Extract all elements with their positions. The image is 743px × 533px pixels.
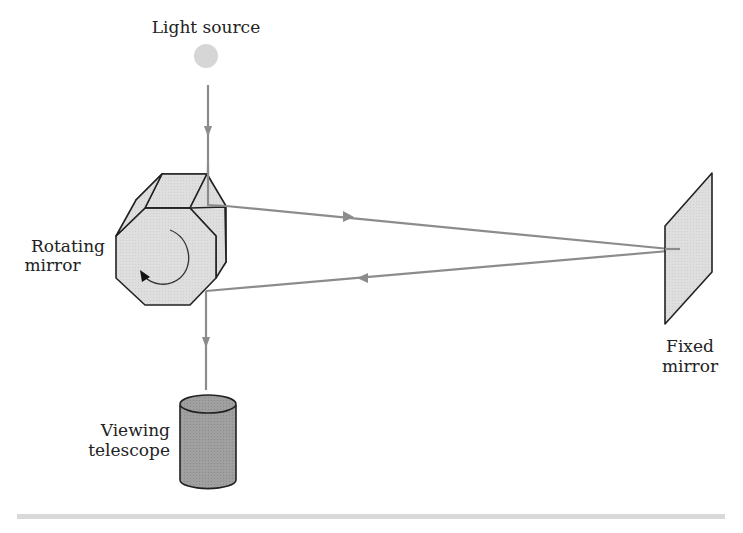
light-source-icon	[194, 44, 218, 68]
fixed-mirror-label-line1: Fixed	[655, 336, 725, 356]
telescope-label-line2: telescope	[70, 440, 170, 460]
diagram-canvas: Light source Rotating mirror Fixed mirro…	[0, 0, 743, 533]
telescope-beam	[202, 291, 210, 390]
rotating-mirror-label-line2: mirror	[10, 255, 95, 275]
rotating-mirror-icon	[116, 174, 226, 305]
rotating-mirror-label-line1: Rotating	[10, 236, 105, 256]
viewing-telescope-icon	[180, 395, 236, 489]
bottom-divider	[17, 514, 725, 519]
telescope-label-line1: Viewing	[80, 420, 170, 440]
fixed-mirror-label-line2: mirror	[655, 356, 725, 376]
return-beam	[206, 250, 680, 291]
outgoing-beam	[208, 165, 680, 250]
light-source-label: Light source	[146, 17, 266, 37]
